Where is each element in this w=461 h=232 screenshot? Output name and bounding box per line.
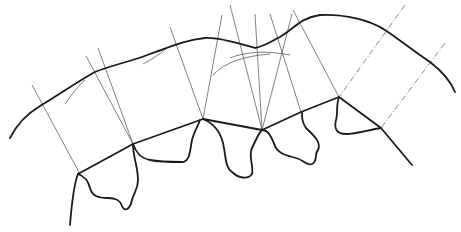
tail-line bbox=[70, 174, 78, 225]
lobe-outline bbox=[78, 144, 138, 209]
lobe-outline bbox=[262, 113, 319, 164]
joint-diagram bbox=[0, 0, 461, 232]
construction-line bbox=[230, 5, 262, 130]
dashed-construction-line bbox=[339, 5, 405, 97]
dashed-construction-line bbox=[381, 43, 445, 128]
tail-line bbox=[381, 128, 412, 165]
outer-curve bbox=[10, 15, 455, 138]
joint-line bbox=[78, 97, 381, 174]
construction-line bbox=[32, 85, 80, 174]
construction-lines bbox=[32, 5, 339, 174]
construction-line bbox=[255, 14, 262, 130]
construction-line bbox=[86, 56, 133, 144]
construction-line bbox=[203, 15, 222, 119]
construction-arc bbox=[213, 54, 270, 75]
lobe-outlines bbox=[78, 97, 381, 209]
construction-line bbox=[270, 14, 301, 112]
lobe-outline bbox=[335, 97, 381, 134]
construction-arcs bbox=[65, 47, 290, 104]
